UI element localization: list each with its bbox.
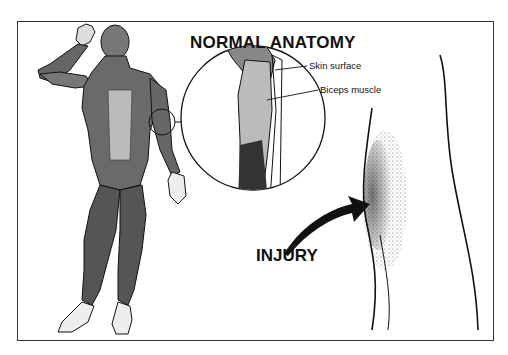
injured-arm xyxy=(363,55,478,330)
magnified-view xyxy=(181,44,325,200)
label-skin-surface: Skin surface xyxy=(309,60,361,71)
anatomy-illustration xyxy=(0,0,508,355)
illustration-title: NORMAL ANATOMY xyxy=(190,33,356,53)
muscle-figure xyxy=(38,24,186,334)
label-biceps-muscle: Biceps muscle xyxy=(320,84,381,95)
injury-label: INJURY xyxy=(256,246,318,266)
